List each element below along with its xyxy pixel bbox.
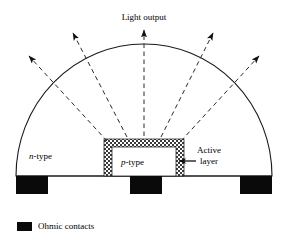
p-type-suffix: -type <box>126 157 145 167</box>
n-type-label: n-type <box>29 151 52 161</box>
ohmic-contact-center <box>130 176 162 194</box>
ohmic-contact-swatch-icon <box>17 222 32 231</box>
active-layer-line-1: Active <box>197 145 221 156</box>
ohmic-contact-right <box>240 176 272 194</box>
n-type-suffix: -type <box>34 151 53 161</box>
ohmic-contacts-group <box>16 176 272 194</box>
active-layer-label: Active layer <box>197 145 221 167</box>
legend: Ohmic contacts <box>17 221 94 231</box>
legend-label: Ohmic contacts <box>38 221 94 231</box>
diagram-canvas <box>0 0 288 244</box>
active-layer-line-2: layer <box>197 156 221 167</box>
light-output-title: Light output <box>0 12 288 22</box>
ohmic-contact-left <box>16 176 48 194</box>
led-cross-section-figure: Light output n-type p-type Active layer … <box>0 0 288 244</box>
p-type-label: p-type <box>121 157 144 167</box>
